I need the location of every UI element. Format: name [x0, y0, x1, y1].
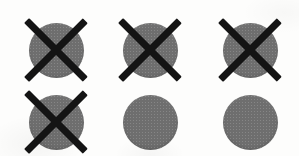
- gray-circle: [123, 95, 178, 150]
- gray-circle: [29, 23, 84, 78]
- gray-circle: [123, 23, 178, 78]
- gray-circle: [223, 23, 278, 78]
- gray-circle: [29, 95, 84, 150]
- image-canvas: [0, 0, 299, 156]
- gray-circle: [223, 95, 278, 150]
